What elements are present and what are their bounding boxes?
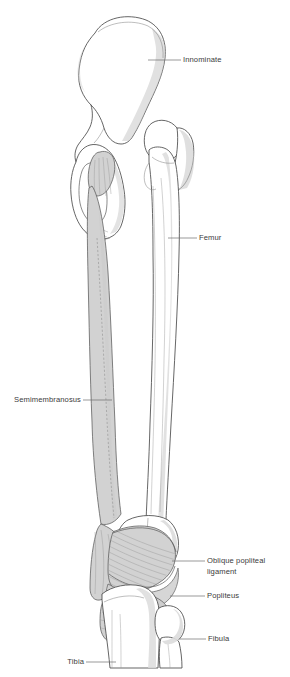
label-oblique-popliteal-ligament: Oblique popliteal ligament bbox=[207, 556, 265, 577]
label-popliteus: Popliteus bbox=[207, 591, 239, 602]
label-fibula: Fibula bbox=[208, 634, 229, 645]
tibia-bone-group bbox=[102, 585, 159, 670]
label-semimembranosus: Semimembranosus bbox=[0, 395, 81, 406]
anatomy-figure: .ln { fill:none; stroke:#4a4a4a; stroke-… bbox=[0, 0, 290, 677]
posterior-inferior-spine bbox=[94, 128, 104, 143]
semimembranosus-belly bbox=[87, 186, 121, 525]
femur-bone-group bbox=[144, 120, 194, 524]
label-innominate: Innominate bbox=[183, 55, 222, 66]
label-opl-line1: Oblique popliteal bbox=[207, 556, 265, 567]
oblique-popliteal-ligament bbox=[108, 526, 175, 593]
fibula-bone-group bbox=[155, 606, 185, 668]
label-opl-line2: ligament bbox=[207, 567, 265, 578]
label-tibia: Tibia bbox=[0, 657, 84, 668]
label-femur: Femur bbox=[199, 233, 221, 244]
